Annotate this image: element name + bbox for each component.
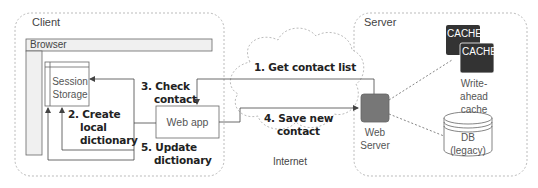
db-label: DB (legacy) bbox=[444, 131, 492, 157]
connector-cache bbox=[389, 60, 452, 100]
browser-label: Browser bbox=[30, 39, 67, 50]
step-4-label: 4. Save new contact bbox=[264, 112, 333, 138]
cache-back-label: CACHE bbox=[447, 28, 482, 39]
session-storage-label: Session Storage bbox=[52, 75, 88, 101]
internet-label: Internet bbox=[273, 156, 307, 167]
server-label: Server bbox=[364, 16, 396, 28]
cache-front-label: CACHE bbox=[462, 46, 497, 57]
write-ahead-cache-label: Write-ahead cache bbox=[448, 77, 500, 116]
browser-sidebar bbox=[26, 51, 42, 155]
step-1-label: 1. Get contact list bbox=[254, 61, 356, 74]
connector-db bbox=[389, 114, 444, 136]
web-server-label: Web Server bbox=[358, 126, 392, 152]
step-2-label: 2. Create local dictionary bbox=[68, 108, 138, 147]
step-3-label: 3. Check contact bbox=[141, 80, 197, 106]
step-5-label: 5. Update dictionary bbox=[141, 141, 212, 167]
web-server-node bbox=[361, 94, 389, 122]
web-app-label: Web app bbox=[156, 116, 219, 129]
client-label: Client bbox=[32, 16, 60, 28]
